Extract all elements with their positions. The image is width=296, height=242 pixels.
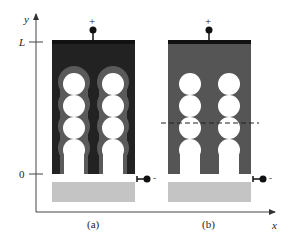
panel-a-top-bar	[52, 40, 135, 44]
panel-a-side-terminal-icon	[144, 176, 151, 183]
panel-b-minus-label: -	[269, 174, 272, 183]
panel-b-bottom-electrode	[168, 182, 251, 202]
tick-label-L: L	[19, 37, 25, 48]
panel-b-top-terminal-icon	[206, 27, 213, 34]
panel-a-plus-label: +	[89, 16, 95, 27]
x-axis-label: x	[272, 220, 277, 231]
panel-b-plus-label: +	[205, 16, 211, 27]
panel-a	[52, 27, 151, 203]
tick-label-0: 0	[19, 169, 25, 180]
panel-b-caption: (b)	[202, 219, 215, 230]
panel-b-side-terminal-icon	[260, 176, 267, 183]
panel-a-top-terminal-icon	[90, 27, 97, 34]
panel-a-minus-label: -	[153, 174, 156, 183]
panel-b-top-bar	[168, 40, 251, 44]
panel-a-bottom-electrode	[52, 182, 135, 202]
y-axis-label: y	[24, 14, 29, 25]
diagram-canvas	[0, 0, 296, 242]
panel-a-caption: (a)	[87, 219, 99, 230]
panel-b	[161, 27, 267, 203]
